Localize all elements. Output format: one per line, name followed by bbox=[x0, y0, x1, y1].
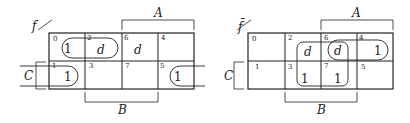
variable-bracket-a bbox=[122, 20, 194, 30]
variable-bracket-b bbox=[285, 92, 357, 102]
cell-index: 3 bbox=[89, 62, 93, 70]
function-label: f bbox=[31, 19, 39, 33]
cell-value: d bbox=[304, 45, 312, 59]
cell-index: 6 bbox=[124, 34, 129, 42]
cell-value: d bbox=[97, 43, 105, 57]
cell-value: d bbox=[334, 44, 342, 58]
variable-label-b: B bbox=[316, 103, 326, 117]
cell-value: d bbox=[134, 43, 142, 57]
kmap-f-bar bbox=[234, 20, 393, 102]
variable-label-b: B bbox=[117, 103, 127, 117]
cell-value: 1 bbox=[64, 42, 72, 56]
cell-value: 1 bbox=[64, 70, 72, 84]
cell-index: 4 bbox=[359, 34, 364, 42]
cell-index: 2 bbox=[87, 34, 91, 42]
cell-index: 6 bbox=[324, 34, 329, 42]
cell-index: 7 bbox=[125, 62, 129, 70]
variable-bracket-a bbox=[321, 20, 393, 30]
cell-index: 0 bbox=[252, 35, 256, 43]
cell-index: 1 bbox=[52, 62, 56, 70]
cell-index: 7 bbox=[324, 62, 328, 70]
cell-value: 1 bbox=[334, 72, 342, 86]
variable-label-c: C bbox=[24, 69, 33, 83]
cell-index: 1 bbox=[255, 63, 259, 71]
cell-index: 0 bbox=[53, 35, 57, 43]
variable-label-a: A bbox=[153, 6, 163, 20]
cell-index: 3 bbox=[288, 63, 292, 71]
cell-value: 1 bbox=[174, 70, 182, 84]
cell-index: 2 bbox=[288, 34, 292, 42]
function-label: f̄ bbox=[237, 18, 245, 34]
cell-value: 1 bbox=[374, 44, 382, 58]
cell-index: 4 bbox=[161, 34, 166, 42]
corner-slash bbox=[38, 20, 52, 30]
kmap-f bbox=[20, 20, 205, 102]
cell-value: 1 bbox=[301, 72, 309, 86]
variable-bracket-b bbox=[85, 92, 158, 102]
variable-bracket-c bbox=[234, 62, 244, 89]
cell-index: 5 bbox=[361, 63, 365, 71]
karnaugh-maps-figure: f A B C 0 2 6 4 1 3 7 5 1 d d 1 1 bbox=[0, 0, 410, 123]
cell-index: 5 bbox=[160, 62, 164, 70]
variable-label-a: A bbox=[351, 6, 361, 20]
variable-label-c: C bbox=[224, 69, 233, 83]
